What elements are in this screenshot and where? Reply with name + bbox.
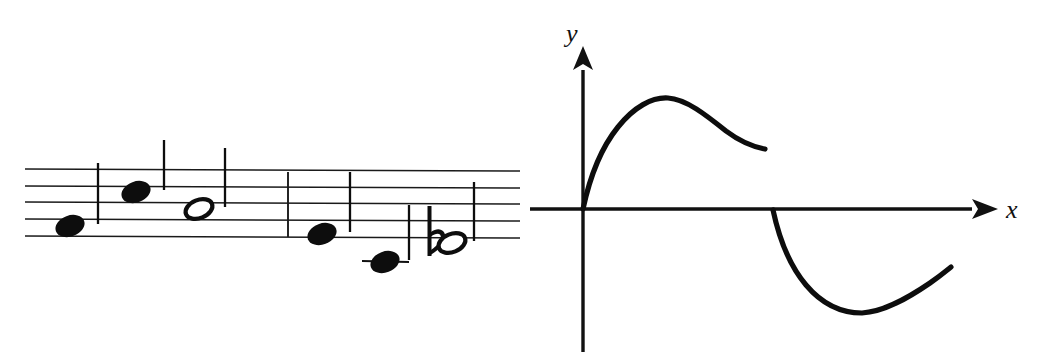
y-axis-arrowhead-icon: [573, 46, 593, 70]
staff-line-4: [25, 219, 520, 221]
y-axis-label: y: [563, 19, 578, 48]
x-axis: [530, 199, 998, 219]
quarter-note-2: [118, 140, 164, 207]
sine-curve-svg: y x: [520, 0, 1043, 363]
negative-arc-path: [773, 210, 951, 313]
x-axis-label: x: [1005, 195, 1018, 224]
staff-line-2: [25, 186, 520, 188]
notehead-filled: [304, 219, 339, 249]
musical-staff-svg: [0, 0, 520, 363]
notehead-filled: [367, 247, 402, 277]
positive-arc-path: [583, 98, 765, 209]
sine-curve-graph-panel: y x: [520, 0, 1043, 363]
figure-root: y x: [0, 0, 1043, 363]
staff-lines-group: [25, 169, 520, 238]
quarter-note-5-ledger: [362, 205, 409, 277]
half-note-3: [183, 148, 225, 223]
staff-line-3: [25, 202, 520, 204]
musical-staff-panel: [0, 0, 520, 363]
x-axis-arrowhead-icon: [972, 199, 998, 219]
half-note-6-with-flat: [428, 182, 475, 257]
notehead-open: [183, 195, 216, 222]
staff-line-1: [25, 169, 520, 171]
